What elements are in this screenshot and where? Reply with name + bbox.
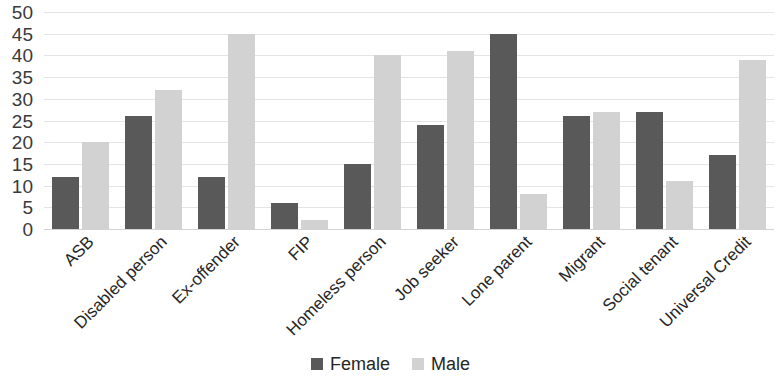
y-axis-tick: 50 [12, 3, 33, 22]
bar-male[interactable] [593, 112, 620, 229]
bar-female[interactable] [709, 155, 736, 229]
bar-group [555, 12, 628, 229]
bar-female[interactable] [198, 177, 225, 229]
legend-swatch-icon [311, 358, 323, 370]
legend: FemaleMale [0, 355, 781, 373]
bar-group [701, 12, 774, 229]
y-axis-tick: 15 [12, 154, 33, 173]
x-axis-labels: ASBDisabled personEx-offenderFIPHomeless… [44, 229, 774, 347]
bar-male[interactable] [155, 90, 182, 229]
legend-swatch-icon [412, 358, 424, 370]
y-axis-tick: 40 [12, 46, 33, 65]
x-axis-label: ASB [60, 233, 97, 270]
legend-label: Female [330, 355, 390, 373]
bar-male[interactable] [739, 60, 766, 229]
plot-area [44, 12, 774, 229]
bar-group [117, 12, 190, 229]
x-axis-label: Job seeker [391, 233, 463, 305]
y-axis-tick: 10 [12, 176, 33, 195]
y-axis-tick: 35 [12, 68, 33, 87]
bar-female[interactable] [125, 116, 152, 229]
bar-male[interactable] [520, 194, 547, 229]
y-axis: 05101520253035404550 [0, 12, 40, 229]
legend-item-female[interactable]: Female [311, 355, 390, 373]
x-axis-label: Ex-offender [169, 233, 244, 308]
bar-group [263, 12, 336, 229]
bar-female[interactable] [636, 112, 663, 229]
bar-female[interactable] [271, 203, 298, 229]
y-axis-tick: 5 [22, 198, 33, 217]
bar-group [44, 12, 117, 229]
bar-male[interactable] [447, 51, 474, 229]
bar-male[interactable] [374, 55, 401, 229]
bar-chart: 05101520253035404550 ASBDisabled personE… [0, 0, 781, 385]
bar-female[interactable] [344, 164, 371, 229]
x-axis-label: FIP [285, 233, 317, 265]
y-axis-tick: 0 [22, 220, 33, 239]
x-axis-label: Migrant [555, 233, 608, 286]
bar-female[interactable] [52, 177, 79, 229]
bar-male[interactable] [82, 142, 109, 229]
bar-female[interactable] [490, 34, 517, 229]
bar-female[interactable] [563, 116, 590, 229]
legend-label: Male [431, 355, 470, 373]
legend-item-male[interactable]: Male [412, 355, 470, 373]
bar-male[interactable] [301, 220, 328, 229]
bar-group [482, 12, 555, 229]
bar-group [190, 12, 263, 229]
bar-group [409, 12, 482, 229]
bar-female[interactable] [417, 125, 444, 229]
x-axis-label: Lone parent [458, 233, 535, 310]
y-axis-tick: 45 [12, 24, 33, 43]
bar-male[interactable] [666, 181, 693, 229]
bar-group [628, 12, 701, 229]
bar-groups [44, 12, 774, 229]
y-axis-tick: 20 [12, 133, 33, 152]
bar-male[interactable] [228, 34, 255, 229]
y-axis-tick: 30 [12, 89, 33, 108]
y-axis-tick: 25 [12, 111, 33, 130]
bar-group [336, 12, 409, 229]
